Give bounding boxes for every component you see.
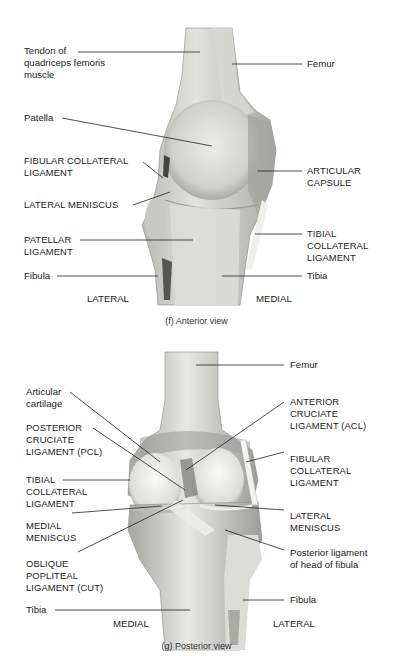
- label-fibula: Fibula: [24, 270, 50, 282]
- label-tibial-collateral-ligament: TIBIAL COLLATERAL LIGAMENT: [307, 228, 368, 263]
- label-patellar-ligament: PATELLAR LIGAMENT: [24, 234, 73, 258]
- label-posterior-cruciate-ligament: POSTERIOR CRUCIATE LIGAMENT (PCL): [26, 422, 102, 457]
- label-patella: Patella: [24, 112, 53, 124]
- label-lateral-meniscus-posterior: LATERAL MENISCUS: [290, 510, 340, 534]
- label-femur-posterior: Femur: [290, 359, 318, 371]
- label-tibia: Tibia: [307, 270, 327, 282]
- side-label-medial-posterior: MEDIAL: [113, 618, 149, 629]
- label-posterior-ligament-of-head-of-fibula: Posterior ligament of head of fibula: [290, 547, 367, 571]
- label-articular-cartilage: Articular cartilage: [26, 386, 62, 410]
- label-fibular-collateral-ligament: FIBULAR COLLATERAL LIGAMENT: [24, 155, 128, 179]
- label-fibular-collateral-ligament-posterior: FIBULAR COLLATERAL LIGAMENT: [290, 453, 351, 488]
- caption-posterior-view: (g) Posterior view: [0, 641, 393, 651]
- label-tibial-collateral-ligament-posterior: TIBIAL COLLATERAL LIGAMENT: [26, 474, 87, 509]
- label-anterior-cruciate-ligament: ANTERIOR CRUCIATE LIGAMENT (ACL): [290, 396, 366, 431]
- side-label-lateral: LATERAL: [87, 293, 129, 304]
- label-articular-capsule: ARTICULAR CAPSULE: [307, 165, 361, 189]
- label-oblique-popliteal-ligament: OBLIQUE POPLITEAL LIGAMENT (CUT): [26, 558, 103, 593]
- label-lateral-meniscus: LATERAL MENISCUS: [24, 199, 118, 211]
- label-medial-meniscus: MEDIAL MENISCUS: [26, 520, 76, 544]
- label-fibula-posterior: Fibula: [290, 594, 316, 606]
- caption-anterior-view: (f) Anterior view: [0, 316, 393, 326]
- label-tendon-of-quadriceps-femoris: Tendon of quadriceps femoris muscle: [24, 45, 105, 80]
- side-label-medial: MEDIAL: [256, 293, 292, 304]
- side-label-lateral-posterior: LATERAL: [273, 618, 315, 629]
- label-femur: Femur: [307, 58, 335, 70]
- figure-anterior-view: Tendon of quadriceps femoris muscle Pate…: [0, 0, 393, 340]
- figure-posterior-view: Articular cartilage POSTERIOR CRUCIATE L…: [0, 330, 393, 656]
- label-tibia-posterior: Tibia: [26, 604, 46, 616]
